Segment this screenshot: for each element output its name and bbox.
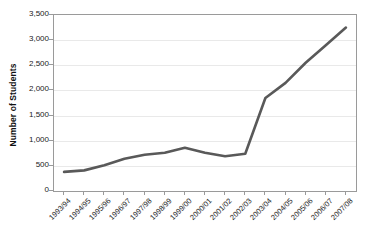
x-tick-mark [144,191,145,195]
x-tick-mark [285,191,286,195]
x-tick-mark [224,191,225,195]
x-tick-mark [345,191,346,195]
x-tick-mark [264,191,265,195]
x-tick-mark [204,191,205,195]
x-tick-mark [164,191,165,195]
x-tick-mark [103,191,104,195]
x-tick-mark [123,191,124,195]
x-tick-mark [63,191,64,195]
line-chart: Number of Students 05001,0001,5002,0002,… [0,0,368,233]
x-tick-mark [184,191,185,195]
x-tick-mark [305,191,306,195]
x-tick-mark [244,191,245,195]
x-tick-mark [325,191,326,195]
x-tick-mark [83,191,84,195]
x-axis-ticks: 1993/941994/951995/961996/971997/981998/… [0,0,368,233]
